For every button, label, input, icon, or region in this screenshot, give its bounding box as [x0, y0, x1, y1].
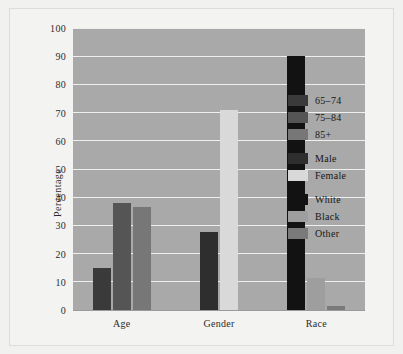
legend-group: 65–7475–8485+: [288, 92, 368, 143]
bar-85-: [133, 207, 151, 310]
y-axis-title: Percentage: [52, 169, 63, 217]
x-tick-label: Race: [306, 318, 327, 329]
y-tick-label: 30: [26, 220, 66, 231]
y-tick-label: 80: [26, 79, 66, 90]
legend-label: 65–74: [315, 95, 342, 106]
legend-swatch: [288, 170, 308, 181]
legend-group: WhiteBlackOther: [288, 191, 368, 242]
chart-legend: 65–7475–8485+MaleFemaleWhiteBlackOther: [288, 92, 368, 242]
legend-label: 75–84: [315, 112, 342, 123]
legend-item: White: [288, 191, 368, 208]
y-tick-label: 100: [26, 23, 66, 34]
legend-swatch: [288, 228, 308, 239]
legend-item: Female: [288, 167, 368, 184]
legend-swatch: [288, 95, 308, 106]
bar-65-74: [93, 268, 111, 310]
legend-label: Black: [315, 211, 340, 222]
y-tick-label: 20: [26, 248, 66, 259]
bar-female: [220, 110, 238, 310]
y-tick-label: 10: [26, 276, 66, 287]
x-tick-label: Age: [113, 318, 131, 329]
legend-swatch: [288, 112, 308, 123]
y-tick-label: 70: [26, 107, 66, 118]
bar-black: [307, 278, 325, 310]
legend-swatch: [288, 194, 308, 205]
legend-item: 65–74: [288, 92, 368, 109]
legend-label: Female: [315, 170, 346, 181]
legend-item: Male: [288, 150, 368, 167]
gridline: [73, 56, 365, 57]
legend-item: Other: [288, 225, 368, 242]
legend-group: MaleFemale: [288, 150, 368, 184]
legend-item: 85+: [288, 126, 368, 143]
bar-75-84: [113, 203, 131, 310]
legend-label: Other: [315, 228, 339, 239]
legend-item: 75–84: [288, 109, 368, 126]
x-tick-label: Gender: [203, 318, 234, 329]
chart-figure: 0102030405060708090100 65–7475–8485+Male…: [0, 0, 403, 354]
legend-label: White: [315, 194, 341, 205]
legend-swatch: [288, 129, 308, 140]
y-tick-label: 90: [26, 51, 66, 62]
plot-area: 0102030405060708090100 65–7475–8485+Male…: [73, 28, 365, 310]
gridline: [73, 84, 365, 85]
legend-item: Black: [288, 208, 368, 225]
bar-male: [200, 232, 218, 310]
y-tick-label: 0: [26, 305, 66, 316]
legend-label: 85+: [315, 129, 332, 140]
legend-swatch: [288, 153, 308, 164]
legend-swatch: [288, 211, 308, 222]
y-tick-label: 60: [26, 135, 66, 146]
legend-label: Male: [315, 153, 337, 164]
gridline: [73, 28, 365, 29]
bar-other: [327, 306, 345, 310]
